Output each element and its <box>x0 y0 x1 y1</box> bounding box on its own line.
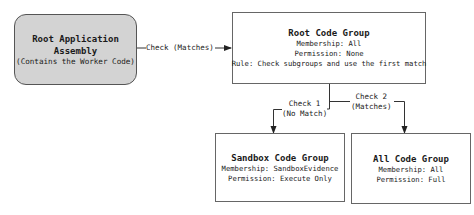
all-code-group-node: All Code Group Membership: All Permissio… <box>351 133 471 204</box>
edge-label-check-1: Check 1 (No Match) <box>282 99 327 119</box>
edge-label-line2: (No Match) <box>282 109 327 119</box>
edge-label-check-matches: Check (Matches) <box>146 43 214 53</box>
node-subtitle: (Contains the Worker Code) <box>16 57 135 67</box>
node-permission: Permission: Full <box>376 175 445 185</box>
node-membership: Membership: All <box>297 39 362 49</box>
node-title: Sandbox Code Group <box>231 152 329 164</box>
node-title-line1: Root Application <box>32 33 119 45</box>
node-permission: Permission: None <box>294 49 363 59</box>
edge-label-line1: Check 2 <box>351 92 392 102</box>
edge-label-line2: (Matches) <box>351 102 392 112</box>
node-rule: Rule: Check subgroups and use the first … <box>232 59 427 69</box>
node-membership: Membership: SandboxEvidence <box>222 164 339 174</box>
node-membership: Membership: All <box>379 165 444 175</box>
sandbox-code-group-node: Sandbox Code Group Membership: SandboxEv… <box>215 133 345 202</box>
root-application-assembly-node: Root Application Assembly (Contains the … <box>14 14 137 85</box>
node-title: Root Code Group <box>288 27 369 39</box>
node-title: All Code Group <box>373 153 449 165</box>
edge-label-line1: Check 1 <box>282 99 327 109</box>
node-title-line2: Assembly <box>54 45 97 57</box>
root-code-group-node: Root Code Group Membership: All Permissi… <box>232 12 426 84</box>
node-permission: Permission: Execute Only <box>228 174 332 184</box>
edge-label-check-2: Check 2 (Matches) <box>351 92 392 112</box>
